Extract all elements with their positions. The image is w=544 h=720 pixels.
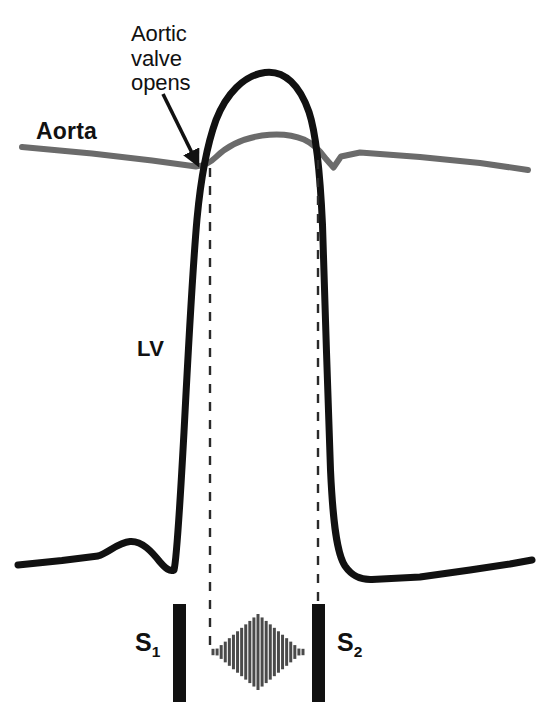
cardiac-pressure-diagram: Aortic valve opens Aorta LV S1 S2 xyxy=(0,0,544,720)
curve-label-aorta: Aorta xyxy=(36,119,97,145)
curve-label-lv: LV xyxy=(137,337,164,362)
systolic-ejection-murmur xyxy=(213,614,303,690)
aortic-valve-opens-arrow xyxy=(163,94,197,162)
lv-pressure-curve xyxy=(18,72,532,579)
heart-sound-label-s1: S1 xyxy=(135,628,160,660)
heart-sound-bar-s1 xyxy=(173,604,186,702)
heart-sound-label-s2-subscript: 2 xyxy=(354,643,363,660)
heart-sound-label-s1-subscript: 1 xyxy=(152,643,161,660)
heart-sound-label-s2: S2 xyxy=(337,628,362,660)
aorta-pressure-curve xyxy=(22,135,528,170)
heart-sound-bar-s2 xyxy=(312,604,325,702)
heart-sound-label-s2-letter: S xyxy=(337,628,354,656)
heart-sound-label-s1-letter: S xyxy=(135,628,152,656)
diagram-canvas xyxy=(0,0,544,720)
annotation-aortic-valve-opens: Aortic valve opens xyxy=(131,22,190,96)
